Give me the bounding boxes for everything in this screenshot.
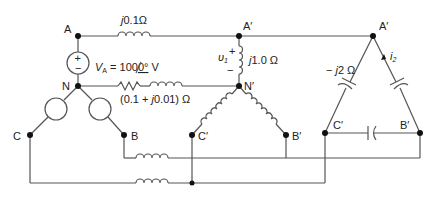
label-b-prime-wye: B′ — [292, 130, 301, 142]
neutral-wire — [78, 82, 239, 90]
label-c-prime-delta: C′ — [333, 119, 343, 131]
wye-load-label: j1.0 Ω — [247, 54, 278, 66]
label-b-prime-delta: B′ — [400, 119, 409, 131]
delta-load-label: − j2 Ω — [326, 64, 355, 76]
node-n-prime — [236, 83, 242, 89]
wye-load-b-c — [192, 86, 286, 135]
label-n-prime: N′ — [244, 80, 254, 92]
voltage-minus: − — [227, 64, 233, 76]
node-c — [27, 132, 33, 138]
current-i2-label: i2 — [390, 50, 396, 63]
voltage-v1-label: υ1 — [218, 51, 228, 64]
node-b-prime-delta — [417, 130, 423, 136]
node-a — [75, 33, 81, 39]
label-a-prime-wye: A′ — [243, 20, 252, 32]
node-n — [75, 83, 81, 89]
label-a-prime-delta: A′ — [379, 20, 388, 32]
current-arrow-icon — [381, 54, 386, 60]
label-n: N — [62, 80, 70, 92]
source-phase-b-c — [30, 86, 124, 135]
label-c-prime-wye: C′ — [198, 130, 208, 142]
line-b-wire — [124, 133, 420, 158]
node-c-prime-wye — [189, 132, 195, 138]
label-b: B — [131, 130, 138, 142]
node-c-prime-delta — [322, 130, 328, 136]
voltage-plus: + — [229, 45, 235, 57]
node-b — [121, 132, 127, 138]
node-b-prime-wye — [283, 132, 289, 138]
label-c: C — [13, 130, 21, 142]
line-impedance-label: j0.1Ω — [119, 14, 147, 26]
three-phase-circuit-diagram: + − A N C B A′ N′ C′ B′ A′ C′ B′ j0.1Ω V… — [0, 0, 433, 199]
source-minus: − — [75, 62, 81, 74]
wye-load-a — [239, 36, 243, 86]
line-a-wire — [78, 32, 373, 36]
label-a: A — [64, 23, 72, 35]
node-a-prime-delta — [370, 33, 376, 39]
source-label: VA = 1000° V — [95, 61, 159, 74]
junction-c-line — [190, 181, 195, 186]
node-a-prime-wye — [236, 33, 242, 39]
neutral-impedance-label: (0.1 + j0.01) Ω — [120, 93, 190, 105]
